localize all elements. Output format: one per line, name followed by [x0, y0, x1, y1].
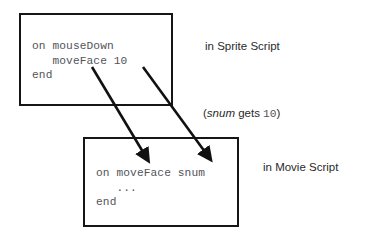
movie-script-code: on moveFace snum ... end: [96, 166, 205, 210]
sprite-script-box: on mouseDown moveFace 10 end: [19, 13, 173, 106]
sprite-script-code: on mouseDown moveFace 10 end: [32, 39, 127, 83]
note-close-paren: ): [277, 107, 281, 119]
movie-script-box: on moveFace snum ... end: [83, 137, 239, 227]
note-verb: gets: [235, 107, 263, 119]
note-value: 10: [263, 108, 276, 120]
note-variable-name: snum: [207, 107, 235, 119]
parameter-pass-note: (snum gets 10): [203, 107, 280, 120]
sprite-script-label: in Sprite Script: [205, 40, 280, 52]
movie-script-label: in Movie Script: [263, 161, 338, 173]
script-message-diagram: on mouseDown moveFace 10 end in Sprite S…: [0, 0, 379, 244]
